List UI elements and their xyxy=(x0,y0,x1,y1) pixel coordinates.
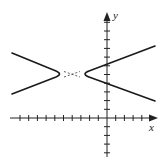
hyperbola-figure: x y xyxy=(0,0,162,162)
right-branch xyxy=(85,46,155,101)
hyperbola-curve xyxy=(12,46,155,101)
left-branch xyxy=(12,53,60,94)
y-axis-label: y xyxy=(112,9,118,21)
asymptotes xyxy=(64,72,80,78)
x-axis-label: x xyxy=(148,121,154,133)
x-axis: x xyxy=(10,115,158,134)
y-axis-arrow-icon xyxy=(104,12,111,21)
